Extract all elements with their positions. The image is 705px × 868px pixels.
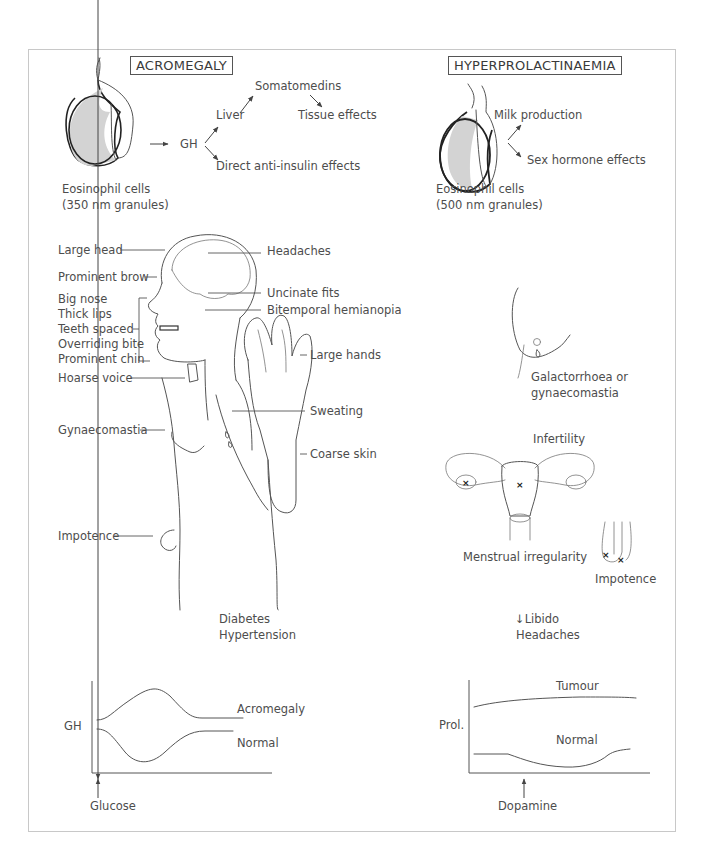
penis-illustration: × × (602, 522, 631, 565)
coarse-skin-label: Coarse skin (310, 447, 377, 462)
overriding-bite-label: Overriding bite (58, 337, 144, 352)
impotence-label: Impotence (58, 529, 119, 544)
arrow-to-liver (205, 127, 218, 143)
arrow-to-sex-hormone (508, 143, 521, 157)
menstrual-irregularity-label: Menstrual irregularity (463, 550, 587, 565)
tissue-effects-label: Tissue effects (298, 108, 377, 123)
thick-lips-label: Thick lips (58, 307, 112, 322)
prominent-brow-label: Prominent brow (58, 270, 149, 285)
diabetes-label: Diabetes (219, 612, 270, 627)
normal-prol-series-label: Normal (556, 733, 598, 748)
acromegaly-title: ACROMEGALY (130, 56, 233, 75)
prol-granule-label: (500 nm granules) (436, 198, 543, 213)
large-hands-label: Large hands (310, 348, 381, 363)
gh-axis-label: GH (64, 719, 82, 734)
hoarse-voice-label: Hoarse voice (58, 371, 133, 386)
big-nose-label: Big nose (58, 292, 107, 307)
dopamine-label: Dopamine (498, 799, 557, 814)
hypertension-label: Hypertension (219, 628, 296, 643)
libido-label: ↓Libido (515, 612, 559, 627)
breast-illustration (512, 288, 570, 378)
liver-label: Liver (216, 108, 244, 123)
svg-text:×: × (516, 480, 524, 490)
prol-cell-label: Eosinophil cells (436, 182, 524, 197)
hyperprolactinaemia-title: HYPERPROLACTINAEMIA (448, 56, 622, 75)
somatomedins-label: Somatomedins (255, 79, 341, 94)
arrow-to-milk (508, 125, 521, 140)
svg-text:×: × (617, 555, 625, 565)
svg-text:×: × (462, 478, 470, 488)
headaches-label: Headaches (267, 244, 331, 259)
direct-anti-insulin-label: Direct anti-insulin effects (216, 159, 360, 174)
acro-granule-label: (350 nm granules) (62, 198, 169, 213)
gh-label: GH (180, 137, 198, 152)
pituitary-gland-acromegaly-icon (66, 58, 133, 166)
acromegaly-series-label: Acromegaly (237, 702, 305, 717)
svg-text:×: × (602, 550, 610, 560)
sex-hormone-label: Sex hormone effects (527, 153, 646, 168)
gynaecomastia-prol-label: gynaecomastia (531, 386, 619, 401)
pituitary-gland-prolactin-icon (440, 84, 497, 192)
teeth-spaced-label: Teeth spaced (58, 322, 134, 337)
acro-cell-label: Eosinophil cells (62, 182, 150, 197)
gynaecomastia-label: Gynaecomastia (58, 423, 147, 438)
impotence-prol-label: Impotence (595, 572, 656, 587)
uterus-illustration: × × (446, 453, 594, 540)
tumour-series-label: Tumour (556, 679, 599, 694)
prominent-chin-label: Prominent chin (58, 352, 145, 367)
uncinate-fits-label: Uncinate fits (267, 286, 340, 301)
normal-series-label: Normal (237, 736, 279, 751)
arrow-to-tissue (310, 95, 322, 107)
headaches-prol-label: Headaches (516, 628, 580, 643)
infertility-label: Infertility (533, 432, 585, 447)
glucose-label: Glucose (90, 799, 136, 814)
sweating-label: Sweating (310, 404, 363, 419)
milk-production-label: Milk production (494, 108, 582, 123)
bitemporal-label: Bitemporal hemianopia (267, 303, 402, 318)
prol-axis-label: Prol. (439, 718, 464, 733)
gh-glucose-chart (92, 0, 272, 798)
arrow-to-direct (205, 146, 218, 160)
galactorrhoea-label: Galactorrhoea or (531, 370, 628, 385)
large-head-label: Large head (58, 243, 123, 258)
